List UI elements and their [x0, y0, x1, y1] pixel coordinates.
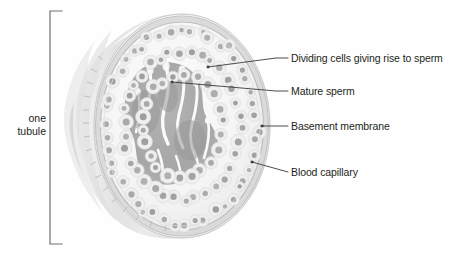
germ-cell — [235, 110, 247, 122]
germ-cell — [125, 158, 137, 170]
germ-cell — [143, 55, 157, 69]
callout-label-basement-membrane: Basement membrane — [291, 120, 390, 132]
germ-cell — [129, 80, 139, 90]
germ-cell-nucleus — [249, 90, 253, 94]
germ-cell — [231, 134, 246, 149]
germ-cell — [160, 168, 175, 183]
germ-cell-nucleus — [128, 191, 134, 197]
germ-cell-nucleus — [250, 101, 255, 106]
germ-cell — [102, 93, 115, 106]
leader-endpoint-basement-membrane — [261, 125, 263, 127]
germ-cell-nucleus — [159, 57, 164, 62]
germ-cell-nucleus — [227, 166, 232, 171]
germ-cell-nucleus — [141, 138, 148, 145]
germ-cell — [172, 47, 186, 61]
germ-cell — [102, 132, 114, 144]
germ-cell-nucleus — [213, 184, 219, 190]
germ-cell-nucleus — [211, 90, 218, 97]
germ-cell — [215, 128, 227, 140]
germ-cell-nucleus — [215, 146, 222, 153]
germ-cell-nucleus — [238, 114, 243, 119]
germ-cell-nucleus — [207, 58, 212, 63]
germ-cell-nucleus — [218, 132, 224, 138]
germ-cell-nucleus — [144, 101, 150, 107]
germ-cell — [124, 90, 136, 102]
germ-cell — [140, 98, 153, 111]
germ-cell-nucleus — [237, 184, 241, 188]
germ-cell-nucleus — [131, 83, 136, 88]
germ-cell-nucleus — [135, 201, 141, 207]
germ-cell — [136, 109, 151, 124]
germ-cell-nucleus — [141, 128, 146, 133]
germ-cell — [209, 202, 223, 216]
callout-label-mature-sperm: Mature sperm — [291, 85, 355, 97]
germ-cell — [223, 39, 236, 52]
germ-cell-nucleus — [120, 179, 126, 185]
germ-cell — [106, 157, 118, 169]
germ-cell — [156, 78, 168, 90]
bracket-label-line2: tubule — [0, 125, 46, 138]
germ-cell-nucleus — [226, 42, 232, 48]
germ-cell — [224, 163, 235, 174]
germ-cell-nucleus — [179, 28, 184, 33]
germ-cell — [162, 47, 173, 58]
germ-cell-nucleus — [170, 194, 176, 200]
figure-canvas: one tubule Dividing cells giving rise to… — [0, 0, 467, 254]
germ-cell-nucleus — [128, 161, 134, 167]
germ-cell — [119, 115, 134, 130]
one-tubule-bracket — [50, 11, 62, 244]
germ-cell-nucleus — [139, 74, 145, 80]
germ-cell-nucleus — [105, 135, 110, 140]
germ-cell — [136, 44, 146, 54]
germ-cell-nucleus — [121, 145, 128, 152]
germ-cell — [207, 86, 222, 101]
tubule-illustration — [0, 0, 467, 254]
germ-cell-nucleus — [193, 218, 198, 223]
germ-cell — [121, 54, 132, 65]
germ-cell-nucleus — [187, 29, 192, 34]
germ-cell — [249, 149, 261, 161]
germ-cell-nucleus — [242, 76, 247, 81]
germ-cell-nucleus — [148, 153, 153, 158]
germ-cell — [120, 130, 133, 143]
germ-cell-nucleus — [127, 93, 133, 99]
germ-cell-nucleus — [152, 185, 159, 192]
germ-cell-nucleus — [235, 138, 242, 145]
germ-cell — [103, 144, 116, 157]
germ-cell-nucleus — [213, 206, 219, 212]
germ-cell-nucleus — [162, 217, 167, 222]
germ-cell — [218, 115, 229, 126]
germ-cell-nucleus — [252, 136, 258, 142]
germ-cell — [150, 162, 161, 173]
germ-cell — [228, 53, 239, 64]
germ-cell-nucleus — [147, 59, 154, 66]
bracket-label-line1: one — [0, 112, 46, 125]
germ-cell-nucleus — [233, 101, 238, 106]
germ-cell-nucleus — [189, 173, 196, 180]
germ-cell — [145, 150, 157, 162]
germ-cell-nucleus — [150, 83, 157, 90]
germ-cell-nucleus — [228, 86, 234, 92]
germ-cell-nucleus — [157, 34, 162, 39]
germ-cell-nucleus — [251, 113, 257, 119]
germ-cell-nucleus — [181, 72, 187, 78]
germ-cell — [213, 102, 227, 116]
germ-cell-nucleus — [170, 74, 175, 79]
germ-cell-nucleus — [141, 178, 148, 185]
germ-cell-nucleus — [176, 175, 183, 182]
germ-cell-nucleus — [123, 118, 130, 125]
germ-cell — [100, 118, 112, 130]
germ-cell-nucleus — [120, 68, 126, 74]
germ-cell — [213, 61, 227, 75]
germ-cell-nucleus — [221, 118, 226, 123]
germ-cell — [247, 98, 258, 109]
callout-label-blood-capillary: Blood capillary — [291, 166, 358, 178]
germ-cell-nucleus — [240, 68, 245, 73]
leader-endpoint-blood-capillary — [251, 161, 253, 163]
germ-cell-nucleus — [189, 49, 195, 55]
germ-cell-nucleus — [231, 56, 236, 61]
bracket-label: one tubule — [0, 112, 46, 137]
germ-cell — [181, 196, 192, 207]
germ-cell — [178, 69, 190, 81]
germ-cell — [205, 157, 217, 169]
